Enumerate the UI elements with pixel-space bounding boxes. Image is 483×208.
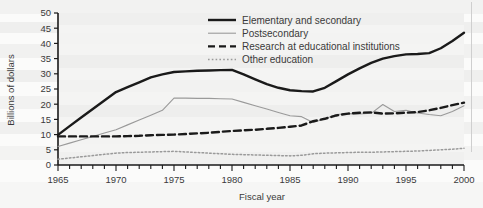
y-tick-label: 0 <box>46 159 51 170</box>
y-tick-label: 35 <box>40 53 51 64</box>
y-tick-label: 50 <box>40 7 51 18</box>
x-tick-label: 1965 <box>47 174 68 185</box>
y-tick-label: 10 <box>40 129 51 140</box>
x-tick-label: 1975 <box>163 174 184 185</box>
x-tick-label: 2000 <box>453 174 474 185</box>
chart-page: 05101520253035404550 1965197019751980198… <box>0 0 483 208</box>
y-tick-label: 25 <box>40 83 51 94</box>
y-tick-label: 40 <box>40 38 51 49</box>
x-axis-tick-labels: 19651970197519801985199019952000 <box>47 174 474 185</box>
legend-label-1: Postsecondary <box>242 28 308 39</box>
y-tick-label: 5 <box>46 144 51 155</box>
x-tick-label: 1985 <box>279 174 300 185</box>
x-tick-label: 1980 <box>221 174 242 185</box>
line-chart: 05101520253035404550 1965197019751980198… <box>0 0 483 208</box>
y-tick-label: 20 <box>40 99 51 110</box>
legend-label-0: Elementary and secondary <box>242 15 361 26</box>
x-tick-label: 1970 <box>105 174 126 185</box>
x-tick-label: 1995 <box>395 174 416 185</box>
y-tick-label: 45 <box>40 23 51 34</box>
legend-label-2: Research at educational institutions <box>242 41 400 52</box>
x-tick-label: 1990 <box>337 174 358 185</box>
y-axis-title: Billions of dollars <box>5 54 16 126</box>
x-axis-title: Fiscal year <box>239 191 285 202</box>
y-axis-tick-labels: 05101520253035404550 <box>40 7 51 170</box>
y-tick-label: 30 <box>40 68 51 79</box>
y-tick-label: 15 <box>40 114 51 125</box>
legend-label-3: Other education <box>242 54 313 65</box>
